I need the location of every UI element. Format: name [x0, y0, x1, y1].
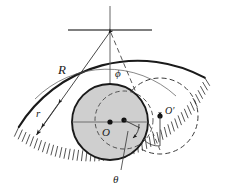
radius-R-label: R	[57, 62, 66, 77]
cylinder-group: O	[72, 84, 148, 160]
diagram-canvas: R r ϕ O	[0, 0, 228, 190]
radius-r-line	[42, 104, 59, 128]
center-Oprime-label: O′	[165, 105, 175, 116]
center-O-label: O	[102, 126, 110, 138]
center-O-dot	[107, 119, 112, 124]
physics-diagram-figure: R r ϕ O	[0, 0, 228, 190]
radius-r-group: r	[36, 104, 59, 128]
angle-phi-label: ϕ	[115, 67, 121, 79]
radius-r-label: r	[36, 107, 41, 119]
angle-theta-label: θ	[113, 173, 119, 185]
